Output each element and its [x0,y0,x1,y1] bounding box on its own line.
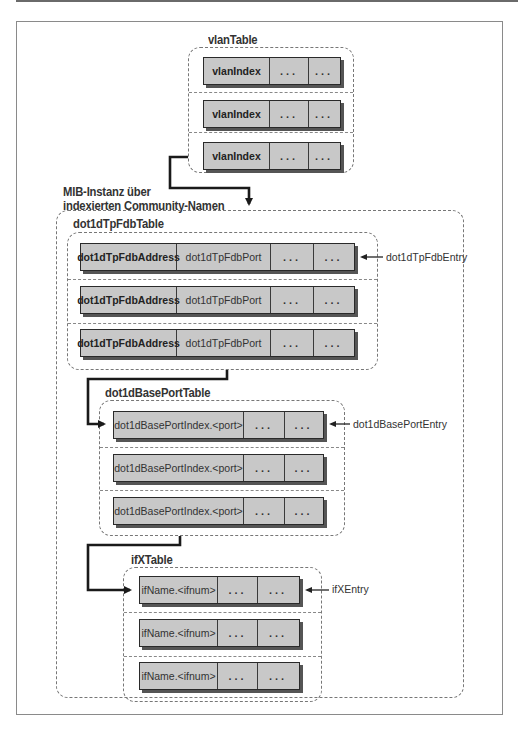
ellipsis-cell: ... [270,58,309,84]
row-separator [100,490,344,491]
ifx-table-row: ifName.<ifnum> ... ... [139,619,300,647]
row-separator [100,447,344,448]
row-separator [68,323,377,324]
vlan-table-title: vlanTable [208,33,257,47]
fdb-table-row: dot1dTpFdbAddress dot1dTpFdbPort ... ... [80,329,355,357]
base-port-index-cell: dot1dBasePortIndex.<port> [114,498,244,524]
ellipsis-cell: ... [218,620,258,646]
ellipsis-cell: ... [271,244,314,270]
ellipsis-cell: ... [258,620,298,646]
ifx-entry-label: ifXEntry [332,583,369,595]
ellipsis-cell: ... [218,577,258,603]
ellipsis-cell: ... [285,498,322,524]
ellipsis-cell: ... [244,412,285,438]
ellipsis-cell: ... [270,101,309,127]
base-port-table-title: dot1dBasePortTable [105,386,210,400]
base-port-index-cell: dot1dBasePortIndex.<port> [114,412,244,438]
row-separator [124,656,321,657]
ifx-table-row: ifName.<ifnum> ... ... [139,662,300,690]
ifx-table-title: ifXTable [131,553,172,567]
ellipsis-cell: ... [314,287,353,313]
base-port-table-row: dot1dBasePortIndex.<port> ... ... [113,454,324,482]
row-separator [68,279,377,280]
ellipsis-cell: ... [258,663,298,689]
vlan-table-row: vlanIndex ... ... [203,100,341,128]
ellipsis-cell: ... [244,455,285,481]
ellipsis-cell: ... [271,330,314,356]
fdb-address-cell: dot1dTpFdbAddress [81,287,177,313]
row-separator [189,132,353,133]
callout-line-1: MIB-Instanz über [63,185,151,199]
fdb-port-cell: dot1dTpFdbPort [177,287,271,313]
ellipsis-cell: ... [309,58,339,84]
ellipsis-cell: ... [244,498,285,524]
fdb-port-cell: dot1dTpFdbPort [177,244,271,270]
ellipsis-cell: ... [314,244,353,270]
fdb-address-cell: dot1dTpFdbAddress [81,244,177,270]
vlan-table-row: vlanIndex ... ... [203,142,341,170]
vlan-index-cell: vlanIndex [204,58,270,84]
top-rule [16,0,518,2]
fdb-table-row: dot1dTpFdbAddress dot1dTpFdbPort ... ... [80,286,355,314]
fdb-table-row: dot1dTpFdbAddress dot1dTpFdbPort ... ... [80,243,355,271]
fdb-entry-label: dot1dTpFdbEntry [386,251,467,263]
if-name-cell: ifName.<ifnum> [140,663,218,689]
if-name-cell: ifName.<ifnum> [140,620,218,646]
fdb-table-title: dot1dTpFdbTable [73,217,164,231]
ellipsis-cell: ... [270,143,309,169]
base-port-table-row: dot1dBasePortIndex.<port> ... ... [113,497,324,525]
vlan-table-row: vlanIndex ... ... [203,57,341,85]
if-name-cell: ifName.<ifnum> [140,577,218,603]
row-separator [189,92,353,93]
fdb-address-cell: dot1dTpFdbAddress [81,330,177,356]
ellipsis-cell: ... [271,287,314,313]
base-port-entry-label: dot1dBasePortEntry [353,418,447,430]
ellipsis-cell: ... [258,577,298,603]
ellipsis-cell: ... [309,101,339,127]
row-separator [124,612,321,613]
vlan-index-cell: vlanIndex [204,143,270,169]
ellipsis-cell: ... [285,412,322,438]
vlan-index-cell: vlanIndex [204,101,270,127]
ifx-table-row: ifName.<ifnum> ... ... [139,576,300,604]
ellipsis-cell: ... [314,330,353,356]
base-port-index-cell: dot1dBasePortIndex.<port> [114,455,244,481]
ellipsis-cell: ... [218,663,258,689]
base-port-table-row: dot1dBasePortIndex.<port> ... ... [113,411,324,439]
ellipsis-cell: ... [285,455,322,481]
ellipsis-cell: ... [309,143,339,169]
fdb-port-cell: dot1dTpFdbPort [177,330,271,356]
